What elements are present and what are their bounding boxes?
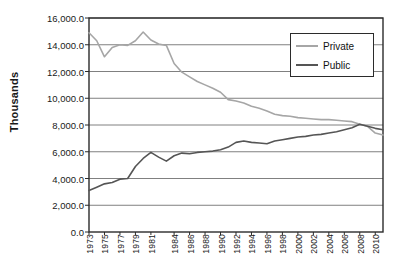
x-axis-tick-labels: 1973197519771979198119841986198819901992…	[89, 234, 383, 276]
x-axis-tick-label: 2010	[371, 234, 381, 254]
legend-item-private: Private	[296, 38, 354, 54]
x-axis-tick-label: 1981	[147, 234, 157, 254]
legend-label-public: Public	[323, 60, 350, 71]
x-axis-tick-label: 1973	[85, 234, 95, 254]
x-axis-tick-label: 1979	[131, 234, 141, 254]
x-axis-tick-label: 1975	[100, 234, 110, 254]
line-chart: Thousands 16,000.014,000.012,000.010,000…	[0, 0, 401, 276]
x-axis-tick-label: 1986	[186, 234, 196, 254]
x-axis-tick-label: 1990	[217, 234, 227, 254]
x-axis-tick-label: 2004	[325, 234, 335, 254]
x-axis-tick-label: 1984	[170, 234, 180, 254]
x-axis-tick-label: 2008	[356, 234, 366, 254]
x-axis-tick-label: 1994	[247, 234, 257, 254]
x-axis-tick-label: 1977	[116, 234, 126, 254]
x-axis-tick-label: 2002	[309, 234, 319, 254]
legend-swatch-public	[296, 64, 318, 66]
series-line-public	[89, 124, 383, 190]
legend-label-private: Private	[323, 41, 354, 52]
x-axis-tick-label: 1992	[232, 234, 242, 254]
legend-swatch-private	[296, 45, 318, 47]
x-axis-tick-label: 1988	[201, 234, 211, 254]
x-axis-tick-label: 1996	[263, 234, 273, 254]
legend-item-public: Public	[296, 57, 350, 73]
x-axis-tick-label: 2000	[294, 234, 304, 254]
x-axis-tick-label: 2006	[340, 234, 350, 254]
chart-legend: Private Public	[290, 33, 374, 77]
x-axis-tick-label: 1998	[278, 234, 288, 254]
